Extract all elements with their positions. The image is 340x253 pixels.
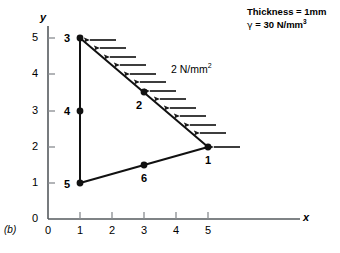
node-label-2: 2	[132, 99, 146, 111]
node-5	[77, 180, 84, 187]
node-label-4: 4	[60, 105, 74, 117]
y-axis-ticks	[48, 38, 55, 183]
material-properties-note: Thickness = 1mm γ = 30 N/mm3	[247, 7, 326, 31]
y-tick-label-4: 4	[27, 67, 43, 79]
node-label-1: 1	[201, 154, 215, 166]
x-tick-label-0: 0	[40, 224, 56, 236]
x-tick-label-3: 3	[136, 224, 152, 236]
node-4	[77, 108, 84, 115]
thickness-unit: mm	[310, 6, 327, 17]
specific-weight-text: = 30 N/mm	[253, 19, 303, 30]
x-tick-label-5: 5	[200, 224, 216, 236]
node-1	[205, 144, 212, 151]
y-tick-label-3: 3	[27, 104, 43, 116]
x-tick-label-2: 2	[104, 224, 120, 236]
x-tick-label-4: 4	[168, 224, 184, 236]
y-tick-label-0: 0	[27, 212, 43, 224]
node-2	[141, 89, 148, 96]
node-3	[77, 35, 84, 42]
plot-area	[0, 0, 340, 253]
panel-label: (b)	[4, 224, 16, 236]
x-tick-label-1: 1	[72, 224, 88, 236]
y-tick-label-1: 1	[27, 176, 43, 188]
thickness-text: Thickness = 1	[247, 6, 310, 17]
figure-panel-b: x y 0 1 2 3 4 5 0 1 2 3 4 5 1 2 3 4 5 6 …	[0, 0, 340, 253]
traction-value: 2 N/mm	[171, 63, 208, 75]
y-tick-label-5: 5	[27, 31, 43, 43]
node-6	[141, 162, 148, 169]
specific-weight-exponent: 3	[303, 18, 307, 25]
axes	[48, 26, 300, 219]
load-arrows	[90, 40, 240, 147]
node-label-5: 5	[60, 178, 74, 190]
x-axis-ticks	[80, 212, 208, 219]
traction-magnitude-label: 2 N/mm2	[171, 62, 212, 75]
specific-weight-line: γ = 30 N/mm3	[247, 18, 326, 31]
y-tick-label-2: 2	[27, 140, 43, 152]
thickness-line: Thickness = 1mm	[247, 7, 326, 18]
y-axis-label: y	[40, 11, 46, 24]
x-axis-label: x	[303, 211, 309, 224]
node-label-6: 6	[137, 172, 151, 184]
node-label-3: 3	[60, 32, 74, 44]
traction-exponent: 2	[208, 62, 212, 69]
